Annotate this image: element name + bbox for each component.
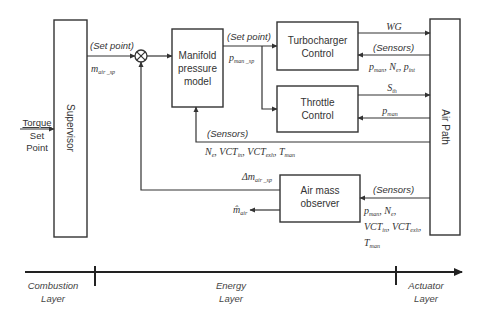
manifold-pressure-setpoint-signal: (Set point) pman _sp	[223, 31, 277, 109]
svg-text:m̂air: m̂air	[233, 204, 248, 216]
sensors-label-turbo: (Sensors)	[373, 42, 414, 53]
svg-text:Turbocharger: Turbocharger	[288, 35, 348, 46]
air-mass-observer-block: Air mass observer	[280, 175, 360, 222]
svg-text:Manifold: Manifold	[179, 50, 217, 61]
set-point-label-1: (Set point)	[90, 40, 134, 51]
combustion-layer-label: Combustion	[28, 280, 79, 291]
svg-text:pressure: pressure	[178, 63, 217, 74]
throttle-pressure-feedback: pman	[358, 105, 430, 118]
svg-text:Layer: Layer	[219, 293, 244, 304]
throttle-command-signal: Sth	[358, 82, 430, 95]
observer-sensors-signal: (Sensors) pman, Ne, VCTin, VCTexh, Tman	[360, 184, 430, 249]
svg-text:pman: pman	[381, 105, 397, 117]
svg-text:pman, Ne,: pman, Ne,	[363, 205, 396, 217]
torque-label: Torque	[22, 117, 51, 128]
actuator-layer-label: Actuator	[407, 280, 444, 291]
control-architecture-diagram: Supervisor Torque Set Point (Set point) …	[0, 0, 483, 316]
svg-text:Control: Control	[301, 48, 333, 59]
svg-text:WG: WG	[386, 21, 402, 32]
manifold-sensor-values: Ne, VCTin, VCTexh, Tman	[204, 146, 295, 158]
supervisor-label: Supervisor	[65, 104, 76, 152]
point-label: Point	[26, 142, 48, 153]
air-mass-setpoint-signal: (Set point) mair _sp	[87, 40, 135, 75]
svg-text:Throttle: Throttle	[301, 97, 335, 108]
svg-text:Air mass: Air mass	[301, 185, 340, 196]
svg-text:observer: observer	[301, 198, 341, 209]
m-air-sp-label: mair _sp	[91, 63, 115, 75]
svg-text:Tman: Tman	[364, 237, 380, 249]
turbo-sensor-values: pman, Ne, pint	[368, 61, 415, 73]
throttle-control-block: Throttle Control	[277, 86, 358, 132]
manifold-pressure-model-block: Manifold pressure model	[172, 29, 223, 107]
svg-text:Δmair _sp: Δmair _sp	[241, 171, 272, 183]
svg-text:Control: Control	[301, 110, 333, 121]
estimated-air-mass-output: m̂air	[233, 204, 280, 216]
svg-text:model: model	[184, 76, 211, 87]
set-point-label-2: (Set point)	[227, 31, 271, 42]
svg-text:Layer: Layer	[41, 293, 66, 304]
turbocharger-control-block: Turbocharger Control	[277, 22, 358, 70]
svg-text:Layer: Layer	[414, 293, 439, 304]
layer-axis: Combustion Layer Energy Layer Actuator L…	[25, 266, 462, 304]
air-path-block: Air Path	[430, 19, 460, 235]
svg-text:Sth: Sth	[387, 82, 397, 94]
torque-set-point-input: Torque Set Point	[20, 117, 54, 153]
energy-layer-label: Energy	[216, 280, 247, 291]
sensors-label-observer: (Sensors)	[373, 184, 414, 195]
summing-junction	[135, 50, 147, 62]
sensors-label-manifold: (Sensors)	[207, 128, 248, 139]
svg-text:VCTin, VCTexh,: VCTin, VCTexh,	[364, 221, 421, 233]
set-label: Set	[30, 130, 45, 141]
supervisor-block: Supervisor	[54, 20, 87, 237]
p-man-sp-label: pman _sp	[228, 52, 254, 64]
turbo-sensors-signal: (Sensors) pman, Ne, pint	[358, 42, 430, 73]
wastegate-signal: WG	[358, 21, 430, 33]
air-path-label: Air Path	[440, 109, 451, 145]
